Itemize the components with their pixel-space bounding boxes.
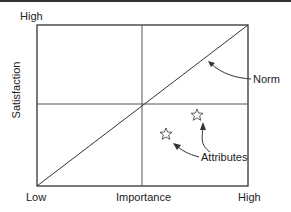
y-axis-high-label: High — [20, 10, 43, 22]
star-icon — [160, 128, 172, 139]
attributes-arrow-lower — [177, 146, 199, 157]
star-icon — [191, 109, 203, 120]
x-axis-title: Importance — [116, 191, 171, 203]
norm-arrow — [210, 63, 251, 79]
arrowhead-icon — [200, 122, 206, 130]
x-axis-low-label: Low — [26, 191, 46, 203]
attributes-label: Attributes — [201, 151, 247, 163]
norm-label: Norm — [253, 73, 280, 85]
importance-satisfaction-matrix — [0, 0, 291, 212]
y-axis-title: Satisfaction — [10, 60, 22, 120]
x-axis-high-label: High — [238, 191, 261, 203]
